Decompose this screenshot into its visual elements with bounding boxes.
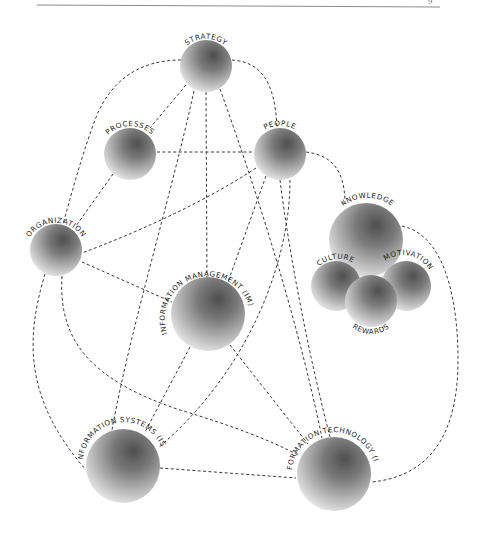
edge-processes-organization [76, 174, 113, 226]
node-organization: ORGANIZATION [24, 216, 88, 276]
page-number: 9 [428, 0, 432, 6]
edge-organization-im [82, 262, 172, 302]
edge-organization-is [33, 274, 86, 470]
sphere-processes [104, 128, 156, 180]
header-rule [37, 5, 440, 7]
sphere-organization [30, 224, 82, 276]
knowledge-management-network-diagram: 9 STRATEGY PROCESSES PEOPLE [0, 0, 481, 537]
node-information-management: INFORMATION MANAGEMENT (IM) [158, 269, 256, 351]
sphere-strategy [180, 40, 232, 92]
edge-strategy-people [232, 60, 277, 128]
sphere-it [297, 437, 371, 511]
node-knowledge-cluster: KNOWLEDGE CULTURE MOTIVATION REWARDS [311, 191, 435, 336]
edge-im-it [230, 345, 308, 444]
node-information-systems: INFORMATION SYSTEMS (IS) [0, 0, 168, 503]
edge-people-knowledge [306, 152, 345, 204]
sphere-is [86, 429, 160, 503]
edge-strategy-processes [150, 85, 186, 128]
edge-is-it [160, 468, 296, 478]
edge-people-im [228, 176, 266, 282]
sphere-people [254, 128, 306, 180]
sphere-im [171, 277, 245, 351]
edge-strategy-im [206, 92, 207, 277]
node-strategy: STRATEGY [180, 32, 232, 92]
edge-im-is [145, 347, 190, 432]
node-processes: PROCESSES [104, 119, 157, 180]
node-people: PEOPLE [254, 118, 306, 180]
sphere-rewards [345, 275, 397, 327]
